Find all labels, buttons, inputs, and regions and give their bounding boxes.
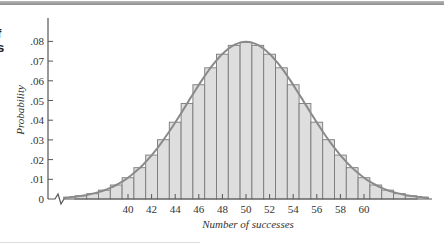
bar	[228, 45, 240, 199]
x-tick-label: 56	[311, 203, 323, 215]
x-tick-label: 42	[146, 203, 157, 215]
x-tick-label: 52	[264, 203, 275, 215]
x-tick-label: 54	[288, 203, 300, 215]
bar	[287, 85, 299, 199]
y-tick-label: .06	[30, 75, 44, 87]
x-tick-label: 60	[359, 203, 371, 215]
bar	[276, 68, 288, 199]
x-tick-label: 40	[123, 203, 135, 215]
y-tick-label: .07	[30, 55, 44, 67]
bottom-rule	[0, 242, 200, 243]
bar	[169, 122, 181, 199]
x-tick-label: 44	[170, 203, 182, 215]
bar	[335, 155, 347, 199]
bar	[323, 140, 335, 199]
bar	[158, 140, 170, 199]
x-axis-title: Number of successes	[201, 218, 294, 230]
bar	[181, 103, 193, 199]
y-tick-label: 0	[39, 193, 45, 205]
y-tick-label: .05	[30, 95, 44, 107]
binomial-probability-chart: 0.01.02.03.04.05.06.07.08 40424446485052…	[0, 0, 444, 245]
y-tick-label: .04	[30, 114, 44, 126]
y-axis-title: Probability	[14, 85, 26, 136]
bar	[146, 155, 158, 199]
bar	[299, 103, 311, 199]
bar	[240, 42, 252, 199]
y-axis-ticks: 0.01.02.03.04.05.06.07.08	[30, 35, 53, 205]
x-tick-label: 48	[217, 203, 229, 215]
bar	[205, 68, 217, 199]
y-tick-label: .03	[30, 134, 44, 146]
bar	[311, 122, 323, 199]
x-tick-label: 50	[241, 203, 253, 215]
histogram-bars	[75, 42, 417, 199]
bar	[217, 54, 229, 199]
x-tick-label: 58	[335, 203, 347, 215]
x-tick-label: 46	[193, 203, 205, 215]
y-tick-label: .01	[30, 173, 44, 185]
y-tick-label: .08	[30, 35, 44, 47]
bar	[264, 54, 276, 199]
bar	[193, 85, 205, 199]
bar	[252, 45, 264, 199]
y-tick-label: .02	[30, 154, 44, 166]
